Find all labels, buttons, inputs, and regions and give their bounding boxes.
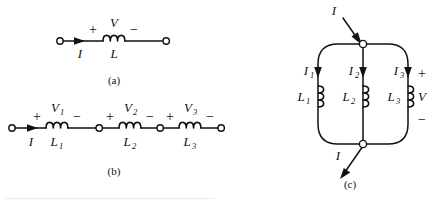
branch-inductance-sub-c-2: 2 — [351, 96, 356, 106]
caption-b: (b) — [108, 165, 121, 178]
current-arrow-a — [74, 37, 85, 45]
voltage-label-a: V — [110, 15, 120, 30]
polarity-plus-b-2: + — [106, 109, 114, 124]
node-b-1 — [96, 125, 102, 131]
branch-current-arrow-c-2 — [359, 67, 367, 78]
current-label-b: I — [28, 134, 34, 149]
panel-c: I I I 1 L 1 I 2 L 2 I 3 L 3 + V − (c) — [296, 3, 428, 191]
circuit-figure: + V − I L (a) — [0, 0, 435, 201]
terminal-left-a — [57, 38, 63, 44]
inductance-label-a: L — [109, 46, 117, 61]
current-arrow-b — [27, 124, 38, 132]
branch-current-sub-c-3: 3 — [399, 70, 404, 80]
inductance-sub-b-1: 1 — [59, 141, 63, 151]
current-out-line-c — [345, 146, 363, 172]
polarity-minus-b-1: − — [73, 109, 81, 124]
branch-current-arrow-c-3 — [404, 67, 412, 78]
inductor-coil-b-2 — [119, 122, 141, 128]
branch-inductance-sub-c-3: 3 — [395, 96, 400, 106]
branch-current-label-c-1: I — [303, 63, 309, 78]
current-in-label-c: I — [331, 3, 337, 18]
figure-root: + V − I L (a) — [0, 0, 435, 201]
polarity-plus-b-3: + — [166, 109, 174, 124]
inductor-coil-c-2 — [363, 86, 369, 107]
branch-current-label-c-3: I — [393, 63, 399, 78]
branch-inductance-label-c-1: L — [296, 89, 304, 104]
branch-current-arrow-c-1 — [314, 67, 322, 78]
voltage-label-c: V — [418, 89, 428, 104]
terminal-right-a — [163, 38, 169, 44]
branch-current-sub-c-1: 1 — [310, 70, 314, 80]
polarity-minus-a: − — [130, 22, 138, 37]
polarity-minus-b-3: − — [206, 109, 214, 124]
panel-a: + V − I L (a) — [57, 15, 170, 87]
branch-current-label-c-2: I — [348, 63, 354, 78]
node-bottom-c — [359, 140, 366, 147]
page-footnote: —————————————————————————————— — [4, 194, 216, 201]
loop-right-c — [363, 44, 408, 144]
inductance-sub-b-2: 2 — [132, 141, 137, 151]
node-b-2 — [157, 125, 163, 131]
branch-inductance-label-c-2: L — [341, 89, 349, 104]
voltage-sub-b-1: 1 — [60, 107, 64, 117]
caption-a: (a) — [108, 74, 121, 87]
current-label-a: I — [77, 46, 83, 61]
inductor-coil-b-1 — [46, 122, 68, 128]
loop-left-c — [318, 44, 363, 144]
voltage-sub-b-2: 2 — [133, 107, 138, 117]
inductor-coil-c-1 — [318, 86, 324, 107]
polarity-plus-a: + — [89, 22, 97, 37]
inductor-coil-b-3 — [179, 122, 201, 128]
inductor-coil-c-3 — [408, 86, 414, 107]
current-out-label-c: I — [335, 148, 341, 163]
inductor-coil-a — [103, 35, 125, 41]
polarity-plus-b-1: + — [33, 109, 41, 124]
inductance-label-b-1: L — [49, 134, 57, 149]
polarity-plus-c: + — [418, 66, 426, 81]
polarity-minus-b-2: − — [146, 109, 154, 124]
terminal-left-b — [9, 125, 15, 131]
branch-inductance-sub-c-1: 1 — [306, 96, 310, 106]
inductance-sub-b-3: 3 — [191, 141, 196, 151]
polarity-minus-c: − — [418, 112, 426, 127]
panel-b: + V 1 − I L 1 + V 2 − L 2 + V 3 − L 3 (b… — [9, 100, 225, 178]
branch-inductance-label-c-3: L — [386, 89, 394, 104]
terminal-right-b — [218, 125, 224, 131]
node-top-c — [359, 40, 366, 47]
inductance-label-b-2: L — [122, 134, 130, 149]
branch-current-sub-c-2: 2 — [355, 70, 360, 80]
voltage-sub-b-3: 3 — [192, 107, 197, 117]
inductance-label-b-3: L — [182, 134, 190, 149]
caption-c: (c) — [344, 178, 357, 191]
